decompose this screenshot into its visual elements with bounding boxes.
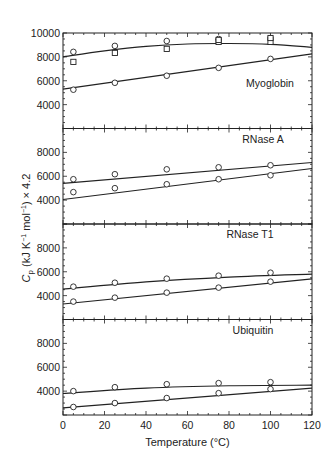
y-axis-title-part: −1 — [20, 234, 27, 242]
y-tick-label: 4000 — [37, 194, 61, 206]
circle-marker — [164, 381, 170, 387]
circle-marker — [71, 189, 77, 195]
circle-marker — [164, 290, 170, 296]
x-tick-label: 60 — [182, 419, 194, 431]
x-tick-label: 100 — [262, 419, 280, 431]
y-axis-title-part: ) × 4.2 — [20, 174, 32, 206]
circle-marker — [112, 171, 118, 177]
circle-marker — [112, 295, 118, 301]
panel-label: Ubiquitin — [233, 324, 274, 336]
panel-rnase-t1: 400060008000RNase T1 — [37, 224, 312, 320]
x-tick-label: 120 — [303, 419, 321, 431]
circle-marker — [216, 273, 222, 279]
chart-canvas: 40006000800010000Myoglobin400060008000RN… — [0, 0, 335, 463]
panel-frame — [63, 224, 312, 320]
circle-marker — [71, 284, 77, 290]
y-tick-label: 4000 — [37, 290, 61, 302]
circle-marker — [112, 80, 118, 86]
x-tick-label: 80 — [223, 419, 235, 431]
circle-marker — [71, 388, 77, 394]
circle-marker — [112, 280, 118, 286]
fit-line — [63, 43, 312, 56]
x-tick-label: 0 — [60, 419, 66, 431]
circle-marker — [71, 49, 77, 55]
circle-marker — [164, 395, 170, 401]
y-tick-label: 8000 — [37, 242, 61, 254]
circle-marker — [216, 176, 222, 182]
circle-marker — [112, 384, 118, 390]
panel-rnase-a: 400060008000RNase A — [37, 129, 312, 225]
panel-label: RNase A — [242, 133, 283, 145]
x-axis-title: Temperature (°C) — [145, 436, 229, 448]
y-tick-label: 6000 — [37, 266, 61, 278]
square-marker — [216, 37, 221, 42]
panel-frame — [63, 320, 312, 416]
y-tick-label: 8000 — [37, 51, 61, 63]
circle-marker — [164, 73, 170, 79]
y-tick-label: 10000 — [31, 27, 60, 39]
circle-marker — [268, 379, 274, 385]
y-tick-label: 6000 — [37, 170, 61, 182]
y-axis-title: Cp (kJ K−1 mol−1) × 4.2 — [20, 174, 35, 283]
panel-label: Myoglobin — [246, 77, 294, 89]
circle-marker — [216, 164, 222, 170]
square-marker — [268, 35, 273, 40]
circle-marker — [268, 56, 274, 62]
y-axis-title-part: (kJ K — [20, 241, 32, 270]
circle-marker — [268, 386, 274, 392]
x-tick-label: 20 — [99, 419, 111, 431]
square-marker — [112, 50, 117, 55]
circle-marker — [268, 270, 274, 276]
circle-marker — [71, 176, 77, 182]
panel-ubiquitin: 400060008000Ubiquitin — [37, 320, 312, 416]
circle-marker — [216, 65, 222, 71]
square-marker — [164, 46, 169, 51]
circle-marker — [112, 400, 118, 406]
circle-marker — [164, 276, 170, 282]
circle-marker — [216, 390, 222, 396]
circle-marker — [71, 404, 77, 410]
y-tick-label: 8000 — [37, 337, 61, 349]
y-axis-title-part: mol — [20, 213, 32, 234]
y-tick-label: 6000 — [37, 361, 61, 373]
fit-line — [63, 274, 312, 289]
circle-marker — [164, 38, 170, 44]
y-tick-label: 8000 — [37, 146, 61, 158]
circle-marker — [216, 285, 222, 291]
x-tick-label: 40 — [140, 419, 152, 431]
circle-marker — [164, 181, 170, 187]
square-marker — [71, 59, 76, 64]
y-tick-label: 6000 — [37, 75, 61, 87]
fit-line — [63, 385, 312, 393]
y-tick-label: 4000 — [37, 385, 61, 397]
circle-marker — [164, 167, 170, 173]
fit-line — [63, 279, 312, 304]
circle-marker — [112, 185, 118, 191]
circle-marker — [268, 279, 274, 285]
circle-marker — [216, 380, 222, 386]
circle-marker — [268, 172, 274, 178]
circle-marker — [71, 87, 77, 93]
circle-marker — [112, 43, 118, 49]
y-axis-title-part: C — [20, 274, 32, 282]
panel-label: RNase T1 — [226, 228, 273, 240]
y-axis-title-part: −1 — [20, 205, 27, 213]
circle-marker — [71, 299, 77, 305]
panel-myoglobin: 40006000800010000Myoglobin — [31, 27, 312, 129]
cp-vs-temperature-chart: 40006000800010000Myoglobin400060008000RN… — [0, 0, 335, 463]
y-tick-label: 4000 — [37, 99, 61, 111]
circle-marker — [268, 162, 274, 168]
